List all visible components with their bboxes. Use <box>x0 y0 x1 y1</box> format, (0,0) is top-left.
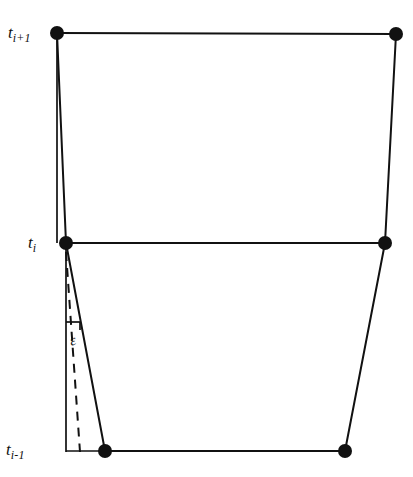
vertex-mid-right <box>378 236 392 250</box>
vertex-bottom-left <box>98 444 112 458</box>
mesh-layer-diagram-svg <box>0 0 413 477</box>
label-t-prev-subscript: i-1 <box>11 448 25 462</box>
vertex-top-right <box>389 27 403 41</box>
label-t-next-subscript: i+1 <box>13 31 31 45</box>
label-time-level-current: ti <box>28 234 36 251</box>
label-time-level-next: ti+1 <box>8 24 31 41</box>
label-t-current-subscript: i <box>33 241 37 255</box>
vertex-bottom-right <box>338 444 352 458</box>
vertex-mid-left <box>59 236 73 250</box>
label-time-level-previous: ti-1 <box>6 441 25 458</box>
diagram-canvas: ti+1 ti ti-1 ε <box>0 0 413 477</box>
edge-top <box>57 33 396 34</box>
vertex-top-left <box>50 26 64 40</box>
